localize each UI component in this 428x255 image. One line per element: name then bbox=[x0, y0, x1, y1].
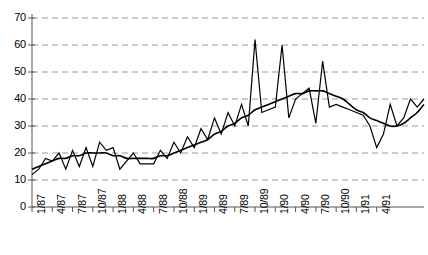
y-axis-label: 0 bbox=[0, 201, 26, 212]
series-line-trend bbox=[32, 91, 424, 170]
chart-plot-area bbox=[0, 0, 428, 255]
x-axis-label: 1/88 bbox=[117, 194, 128, 214]
x-axis-label: 10/88 bbox=[178, 189, 189, 214]
x-axis-label: 7/88 bbox=[158, 194, 169, 214]
x-axis-label: 7/87 bbox=[77, 194, 88, 214]
x-axis-label: 1/91 bbox=[360, 194, 371, 214]
y-axis-label: 40 bbox=[0, 93, 26, 104]
x-axis-label: 10/89 bbox=[259, 189, 270, 214]
x-axis-label: 1/87 bbox=[36, 194, 47, 214]
x-axis-label: 7/90 bbox=[320, 194, 331, 214]
x-axis-label: 4/88 bbox=[137, 194, 148, 214]
series-line-observed bbox=[32, 40, 424, 175]
x-axis-label: 4/91 bbox=[381, 194, 392, 214]
y-axis-label: 70 bbox=[0, 12, 26, 23]
y-axis-label: 20 bbox=[0, 147, 26, 158]
y-axis-label: 50 bbox=[0, 66, 26, 77]
y-axis-label: 10 bbox=[0, 174, 26, 185]
x-axis-label: 10/87 bbox=[97, 189, 108, 214]
y-axis-label: 60 bbox=[0, 39, 26, 50]
x-axis-label: 1/89 bbox=[198, 194, 209, 214]
x-axis-label: 10/90 bbox=[340, 189, 351, 214]
x-axis-label: 1/90 bbox=[279, 194, 290, 214]
y-axis-label: 30 bbox=[0, 120, 26, 131]
line-chart: 0102030405060701/874/877/8710/871/884/88… bbox=[0, 0, 428, 255]
x-axis-label: 4/90 bbox=[300, 194, 311, 214]
x-axis-label: 4/87 bbox=[56, 194, 67, 214]
x-axis-label: 4/89 bbox=[218, 194, 229, 214]
x-axis-label: 7/89 bbox=[239, 194, 250, 214]
